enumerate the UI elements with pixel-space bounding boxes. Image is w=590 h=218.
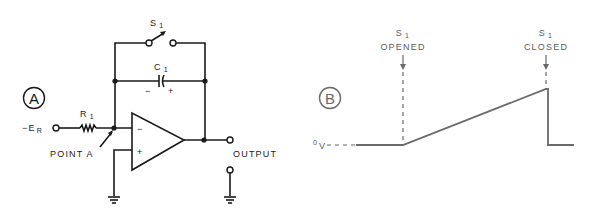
cap-plus-sign: +: [168, 86, 174, 96]
integrator-diagram: A S1 C1 − + −ER R1 POINT A: [0, 0, 590, 218]
noninverting-input-wire: [114, 150, 132, 196]
panel-a-circuit: A S1 C1 − + −ER R1 POINT A: [22, 18, 277, 203]
badge-a-label: A: [29, 90, 39, 107]
switch-right-contact: [170, 40, 176, 46]
zero-volt-label: 0V: [313, 139, 326, 151]
resistor-r1: [80, 125, 96, 131]
panel-b-waveform: B 0V S1 OPENED S1 CLOSED: [313, 28, 574, 151]
input-label: −ER: [22, 123, 43, 134]
switch-right-wire: [176, 43, 205, 81]
ground-icon: [224, 197, 236, 203]
opened-switch-label: S1: [396, 28, 410, 39]
closed-label: CLOSED: [524, 42, 568, 52]
switch-label: S1: [150, 18, 164, 29]
output-terminal: [227, 137, 233, 143]
junction-dot: [201, 137, 206, 142]
resistor-label: R1: [80, 109, 95, 120]
point-a-label: POINT A: [50, 149, 94, 159]
output-return-terminal: [227, 167, 233, 173]
output-ramp-trace: [356, 89, 574, 145]
closed-switch-label: S1: [539, 28, 553, 39]
closed-arrow-icon: [543, 64, 549, 70]
input-terminal: [53, 125, 59, 131]
output-label: OUTPUT: [233, 149, 277, 159]
capacitor-label: C1: [154, 62, 169, 73]
opamp-plus-sign: +: [137, 147, 143, 157]
point-a-dot: [111, 125, 116, 130]
switch-left-wire: [115, 43, 146, 81]
opamp-minus-sign: −: [137, 124, 143, 134]
cap-minus-sign: −: [145, 86, 151, 96]
badge-b-label: B: [325, 90, 335, 107]
opened-arrow-icon: [400, 64, 406, 70]
opamp-triangle: [132, 113, 184, 170]
opened-label: OPENED: [380, 42, 425, 52]
ground-icon: [108, 197, 120, 203]
